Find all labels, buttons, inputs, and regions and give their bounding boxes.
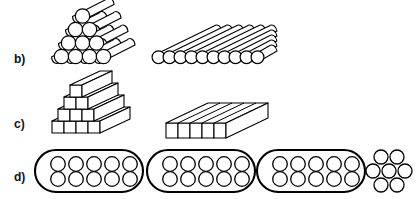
prism-flat-slab [163, 100, 273, 146]
cylinder-flat-layer [150, 20, 280, 72]
loose-circle-cluster [366, 149, 412, 195]
row-label-b: b) [14, 52, 25, 66]
row-label-d: d) [14, 170, 25, 184]
prism-slab-front [166, 123, 226, 138]
row-label-c: c) [14, 117, 25, 131]
figure-canvas: b) [0, 0, 417, 199]
capsule-container-1 [33, 148, 145, 194]
capsule-container-3 [255, 148, 367, 194]
prism-pyramid-stack [44, 76, 150, 138]
capsule-container-2 [145, 148, 257, 194]
cluster-circles [366, 150, 412, 192]
cylinder-pyramid-stack [44, 4, 149, 76]
